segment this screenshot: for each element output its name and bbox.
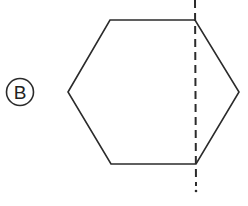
option-marker: B <box>7 79 34 106</box>
option-label: B <box>14 82 27 103</box>
fold-line-dashed <box>195 0 196 186</box>
fold-line-end-dot <box>195 190 198 193</box>
hexagon-shape <box>68 20 239 164</box>
diagram: B <box>0 0 248 206</box>
